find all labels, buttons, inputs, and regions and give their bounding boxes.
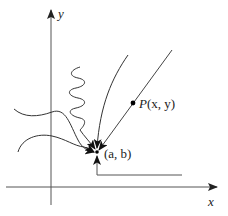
limit-paths-diagram: y x (a, b) P(x, y) bbox=[0, 0, 228, 216]
moving-point-label: P(x, y) bbox=[138, 96, 175, 111]
x-axis-label: x bbox=[207, 194, 214, 209]
squiggly-path-from-above bbox=[69, 67, 95, 149]
curved-path-from-above bbox=[97, 55, 128, 148]
limit-point bbox=[95, 150, 99, 154]
y-axis-label: y bbox=[56, 6, 64, 21]
moving-point-P bbox=[131, 101, 136, 106]
limit-point-label: (a, b) bbox=[104, 146, 131, 161]
wavy-path-from-left-lower bbox=[18, 135, 94, 152]
wavy-path-from-left-upper bbox=[14, 109, 94, 152]
